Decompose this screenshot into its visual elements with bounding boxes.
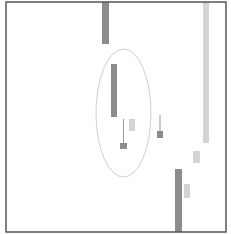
candle-body-up	[129, 119, 135, 131]
candles-group	[102, 2, 209, 232]
candle-body-down	[120, 143, 127, 149]
candle-body-up	[193, 151, 200, 163]
annotations-group	[96, 49, 151, 177]
candle-body-down	[111, 64, 117, 117]
candle-body-down	[102, 2, 109, 44]
candle-body-up	[184, 184, 190, 198]
candlestick-chart	[0, 0, 231, 234]
highlight-ellipse	[96, 49, 151, 177]
candle-body-down	[175, 169, 182, 232]
candle-body-down	[157, 131, 163, 138]
candle-body-up	[203, 2, 209, 143]
